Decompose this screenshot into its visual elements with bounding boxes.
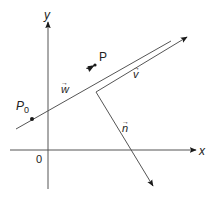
vector-v [96,37,187,92]
origin-label: 0 [36,153,42,165]
vector-n [96,92,153,186]
n-label-group: n → [122,118,129,134]
v-arrow-accent-icon: → [133,64,140,71]
w-label-group: w → [61,79,70,95]
vector-line-diagram: y x 0 P0 P w → v → n → [0,0,212,197]
p0-subscript: 0 [24,105,29,115]
line-through-p0-p [16,41,171,129]
x-axis-label: x [198,144,206,158]
p-label: P [99,50,107,64]
w-arrow-accent-icon: → [61,79,68,86]
p0-label: P0 [16,99,29,115]
v-label-group: v → [133,64,140,80]
y-axis-label: y [43,8,51,22]
n-arrow-accent-icon: → [122,118,129,125]
point-p0 [30,117,34,121]
point-p [93,63,96,66]
